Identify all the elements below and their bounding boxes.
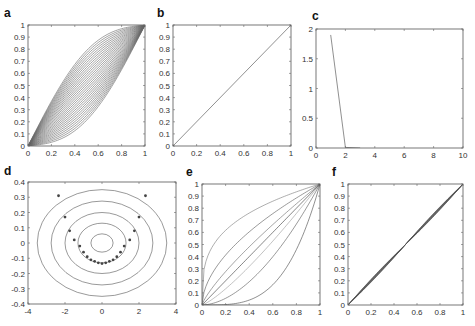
panel-b: b00.20.40.60.8100.10.20.30.40.50.60.70.8… bbox=[157, 6, 294, 158]
y-tick-label: -0.3 bbox=[11, 285, 25, 294]
y-tick-label: 0 bbox=[21, 239, 26, 248]
y-tick-label: 0.9 bbox=[334, 192, 346, 201]
y-tick-label: 0.2 bbox=[14, 118, 26, 127]
y-tick-label: -0.4 bbox=[11, 300, 25, 309]
x-tick-label: 0.8 bbox=[291, 308, 303, 317]
y-tick-label: 1 bbox=[341, 180, 346, 189]
y-tick-label: 0.8 bbox=[14, 45, 26, 54]
y-tick-label: 0.2 bbox=[188, 277, 200, 286]
x-tick-label: 0.2 bbox=[191, 149, 203, 158]
x-tick-label: 2 bbox=[343, 151, 348, 160]
x-tick-label: 0.4 bbox=[215, 149, 227, 158]
x-tick-label: -2 bbox=[61, 307, 69, 316]
x-tick-label: 0.6 bbox=[411, 308, 423, 317]
panel-label-a: a bbox=[4, 6, 11, 20]
y-tick-label: 0.6 bbox=[334, 228, 346, 237]
x-tick-label: 0.4 bbox=[244, 308, 256, 317]
x-tick-label: -4 bbox=[24, 307, 32, 316]
y-tick-label: 0.1 bbox=[188, 289, 200, 298]
y-tick-label: 0.4 bbox=[14, 178, 26, 187]
x-tick-label: 8 bbox=[431, 151, 436, 160]
y-tick-label: 1 bbox=[309, 85, 314, 94]
scatter-point bbox=[115, 255, 118, 258]
x-tick-label: 0.2 bbox=[220, 308, 232, 317]
x-tick-label: 0.8 bbox=[262, 149, 274, 158]
panel-label-c: c bbox=[312, 9, 319, 23]
y-tick-label: 0.3 bbox=[334, 265, 346, 274]
x-tick-label: 0 bbox=[200, 308, 205, 317]
y-tick-label: 0.7 bbox=[14, 57, 26, 66]
y-tick-label: 0.1 bbox=[334, 289, 346, 298]
scatter-point bbox=[123, 245, 126, 248]
y-tick-label: 0.5 bbox=[334, 241, 346, 250]
panel-label-e: e bbox=[186, 165, 193, 179]
panel-label-b: b bbox=[157, 6, 164, 20]
x-tick-label: 10 bbox=[459, 151, 468, 160]
y-tick-label: 0.1 bbox=[14, 224, 26, 233]
y-tick-label: 0 bbox=[341, 301, 346, 310]
figure-canvas: a00.20.40.60.8100.10.20.30.40.50.60.70.8… bbox=[0, 0, 475, 326]
scatter-point bbox=[144, 194, 147, 197]
x-tick-label: 0.6 bbox=[267, 308, 279, 317]
x-tick-label: 4 bbox=[174, 307, 179, 316]
y-tick-label: 0.4 bbox=[188, 253, 200, 262]
scatter-point bbox=[73, 239, 76, 242]
y-tick-label: 0.8 bbox=[334, 204, 346, 213]
x-tick-label: 0.2 bbox=[46, 149, 58, 158]
x-tick-label: 0 bbox=[26, 149, 31, 158]
x-tick-label: 0.4 bbox=[388, 308, 400, 317]
x-tick-label: 0 bbox=[171, 149, 176, 158]
y-tick-label: 0.7 bbox=[188, 216, 200, 225]
scatter-point bbox=[138, 216, 141, 219]
x-tick-label: 1 bbox=[289, 149, 294, 158]
x-tick-label: 4 bbox=[373, 151, 378, 160]
x-tick-label: 0.4 bbox=[69, 149, 81, 158]
panel-label-d: d bbox=[4, 164, 11, 178]
x-tick-label: 0.8 bbox=[116, 149, 128, 158]
y-tick-label: 0.6 bbox=[188, 228, 200, 237]
y-tick-label: 0 bbox=[166, 142, 171, 151]
y-tick-label: 0.9 bbox=[14, 33, 26, 42]
y-tick-label: 0.5 bbox=[188, 241, 200, 250]
y-tick-label: 0.6 bbox=[159, 69, 171, 78]
y-tick-label: -0.1 bbox=[11, 254, 25, 263]
scatter-point bbox=[128, 239, 131, 242]
y-tick-label: 0.9 bbox=[188, 192, 200, 201]
y-tick-label: 1 bbox=[195, 180, 200, 189]
scatter-point bbox=[133, 229, 136, 232]
x-tick-label: 0 bbox=[100, 307, 105, 316]
panel-f: f00.20.40.60.8100.10.20.30.40.50.60.70.8… bbox=[332, 165, 466, 317]
scatter-point bbox=[82, 251, 85, 254]
scatter-point bbox=[57, 194, 60, 197]
scatter-point bbox=[119, 251, 122, 254]
y-tick-label: 0.5 bbox=[302, 114, 314, 123]
y-tick-label: 0.4 bbox=[334, 253, 346, 262]
scatter-point bbox=[104, 261, 107, 264]
y-tick-label: 0.5 bbox=[159, 82, 171, 91]
scatter-point bbox=[108, 260, 111, 263]
y-tick-label: 1 bbox=[166, 21, 171, 30]
scatter-point bbox=[64, 216, 67, 219]
y-tick-label: 0.2 bbox=[14, 209, 26, 218]
y-tick-label: 0.5 bbox=[14, 82, 26, 91]
panel-label-f: f bbox=[332, 165, 337, 179]
y-tick-label: 0.2 bbox=[159, 118, 171, 127]
x-tick-label: 0.6 bbox=[238, 149, 250, 158]
x-tick-label: 6 bbox=[402, 151, 407, 160]
y-tick-label: -0.2 bbox=[11, 270, 25, 279]
scatter-point bbox=[86, 255, 89, 258]
y-tick-label: 0.3 bbox=[14, 193, 26, 202]
axes-box-a bbox=[28, 25, 145, 146]
y-tick-label: 0.7 bbox=[159, 57, 171, 66]
panel-e: e00.20.40.60.8100.10.20.30.40.50.60.70.8… bbox=[186, 165, 323, 317]
y-tick-label: 0.3 bbox=[14, 106, 26, 115]
y-tick-label: 0.1 bbox=[159, 130, 171, 139]
y-tick-label: 1.5 bbox=[302, 55, 314, 64]
y-tick-label: 0.8 bbox=[188, 204, 200, 213]
x-tick-label: 0.8 bbox=[434, 308, 446, 317]
y-tick-label: 0.8 bbox=[159, 45, 171, 54]
y-tick-label: 0 bbox=[309, 144, 314, 153]
y-tick-label: 0.1 bbox=[14, 130, 26, 139]
x-tick-label: 0 bbox=[346, 308, 351, 317]
scatter-point bbox=[112, 258, 115, 261]
